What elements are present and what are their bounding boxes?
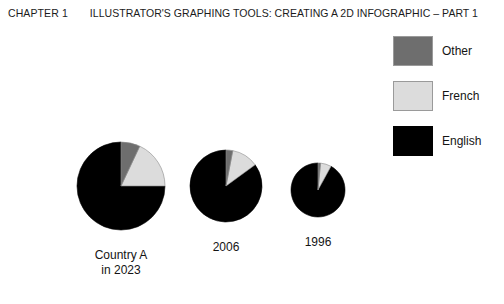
pie-chart-label: 1996 <box>258 235 378 250</box>
pie-chart: 1996 <box>289 161 347 219</box>
pie-svg <box>289 161 347 219</box>
pie-svg <box>188 148 264 224</box>
pie-chart-group: Country A in 202320061996 <box>0 0 504 304</box>
pie-chart: Country A in 2023 <box>75 140 167 232</box>
pie-chart: 2006 <box>188 148 264 224</box>
pie-chart-label: Country A in 2023 <box>61 248 181 278</box>
infographic-page: CHAPTER 1 ILLUSTRATOR'S GRAPHING TOOLS: … <box>0 0 504 304</box>
pie-svg <box>75 140 167 232</box>
